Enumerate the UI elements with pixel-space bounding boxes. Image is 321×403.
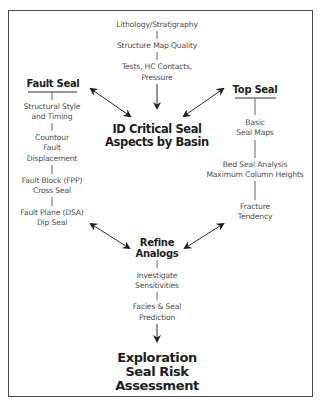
top-seal-heading: Top Seal	[233, 85, 278, 95]
final-node-line3: Assessment	[115, 379, 199, 392]
fault-seal-item: Fault	[43, 144, 60, 152]
fault-seal-item: and Timing	[32, 113, 73, 121]
fault-seal-item: Structural Style	[24, 103, 81, 111]
top-seal-item: Fracture	[240, 203, 270, 211]
input-tests-line2: Pressure	[141, 74, 172, 82]
refine-step: Prediction	[139, 314, 175, 322]
input-structure-map: Structure Map Quality	[117, 42, 197, 50]
top-seal-item: Bed Seal Analysis	[223, 161, 288, 169]
refine-node-line2: Analogs	[136, 249, 179, 259]
fault-seal-item: Dip Seal	[37, 219, 67, 227]
fault-seal-item: Fault Block (FPP)	[22, 177, 83, 185]
fault-seal-item: Fault Plane (DSA)	[20, 209, 83, 217]
input-lithology: Lithology/Stratigraphy	[116, 21, 198, 29]
top-seal-item: Seal Maps	[236, 129, 273, 137]
center-node-line1: ID Critical Seal	[112, 124, 201, 136]
top-seal-item: Basic	[245, 119, 264, 127]
final-node-line2: Seal Risk	[125, 365, 188, 378]
fault-seal-heading: Fault Seal	[27, 79, 80, 89]
center-node-line2: Aspects by Basin	[105, 137, 209, 149]
refine-step: Investigate	[137, 272, 178, 280]
input-tests-line1: Tests, HC Contacts,	[122, 63, 192, 71]
top-seal-item: Maximum Column Heights	[206, 171, 303, 179]
fault-seal-item: Countour	[35, 134, 69, 142]
refine-step: Sensitivities	[135, 282, 179, 290]
refine-step: Facies & Seal	[133, 303, 181, 311]
fault-seal-item: Displacement	[27, 155, 77, 163]
refine-node-line1: Refine	[140, 238, 174, 248]
fault-seal-item: Cross Seal	[33, 187, 71, 195]
final-node-line1: Exploration	[117, 351, 197, 364]
top-seal-item: Tendency	[238, 213, 273, 221]
